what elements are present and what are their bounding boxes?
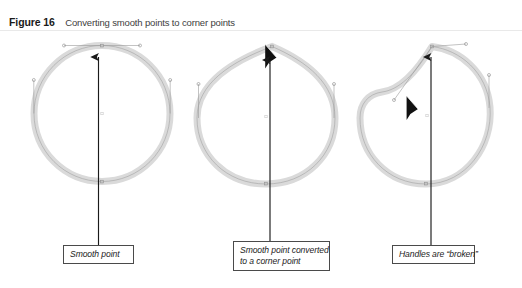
callout-converted-corner-point: Smooth point converted to a corner point xyxy=(233,241,330,271)
anchor-point-bottom[interactable] xyxy=(265,182,268,185)
panel-broken-handles xyxy=(360,43,491,246)
callout-broken-handles-text: Handles are “broken” xyxy=(399,249,468,260)
shape-broken-stroke xyxy=(360,47,490,185)
anchor-point-bottom[interactable] xyxy=(425,182,428,185)
anchor-point-top[interactable] xyxy=(101,44,104,47)
panel-smooth-point xyxy=(32,44,171,245)
callout-converted-line-1: Smooth point converted xyxy=(240,245,323,256)
shape-center-marker xyxy=(265,115,267,117)
shape-center-marker xyxy=(426,114,428,116)
figure-root: Figure 16 Converting smooth points to co… xyxy=(0,0,522,288)
anchor-point-bottom[interactable] xyxy=(101,180,104,183)
shape-center-marker xyxy=(101,112,103,114)
panel-converted-corner-point xyxy=(197,45,336,242)
anchor-point-corner[interactable] xyxy=(271,45,274,48)
convert-point-cursor xyxy=(407,96,418,120)
callout-smooth-point: Smooth point xyxy=(63,245,134,264)
callout-converted-line-2: to a corner point xyxy=(240,256,323,267)
broken-handle-dragged xyxy=(394,47,432,101)
callout-broken-handles: Handles are “broken” xyxy=(392,245,475,264)
callout-smooth-point-text: Smooth point xyxy=(70,249,127,260)
shape-circle-stroke xyxy=(34,46,170,182)
